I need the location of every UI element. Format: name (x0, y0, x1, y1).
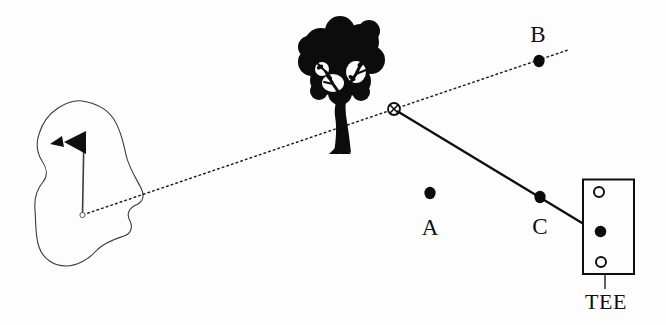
tee-box: TEE (583, 180, 634, 315)
point-c-dot (534, 191, 545, 203)
tree-icon (298, 16, 385, 154)
point-a-label: A (422, 215, 439, 240)
intersection-marker (388, 103, 400, 115)
point-c: C (532, 191, 547, 239)
flag-pennant (64, 131, 86, 154)
point-a: A (422, 187, 439, 240)
putting-green-outline (35, 101, 143, 266)
golf-diagram: B A C TEE (0, 0, 666, 325)
diagram-canvas: B A C TEE (0, 0, 666, 325)
tree-canopy (298, 16, 385, 105)
hole-marker (80, 212, 85, 217)
tee-box-outline (583, 180, 634, 275)
tee-marker-middle-filled (595, 226, 607, 238)
solid-shot-line (397, 111, 592, 229)
tee-marker-top-open (594, 187, 604, 197)
tee-label: TEE (585, 289, 627, 314)
point-b-label: B (530, 22, 545, 47)
flag-icon (50, 131, 86, 218)
point-b: B (530, 22, 545, 67)
point-c-label: C (532, 214, 547, 239)
point-a-dot (424, 187, 435, 199)
tee-marker-bottom-open (596, 257, 606, 267)
point-b-dot (533, 55, 544, 67)
flag-pennant-tip (50, 136, 64, 147)
